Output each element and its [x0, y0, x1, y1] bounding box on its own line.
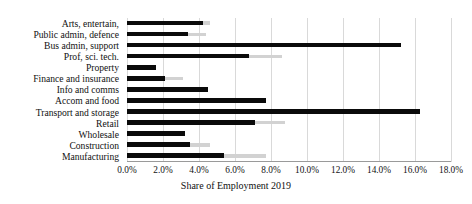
category-axis-labels: Arts, entertain,Public admin, defenceBus…	[0, 18, 123, 162]
bar-row	[127, 107, 451, 118]
category-label: Info and comms	[0, 84, 123, 95]
x-tick-label: 18.0%	[439, 165, 463, 175]
category-label: Transport and storage	[0, 107, 123, 118]
x-tick-label: 12.0%	[331, 165, 355, 175]
bar-segment-dark	[127, 131, 185, 136]
bar-segment-dark	[127, 76, 165, 81]
category-label: Retail	[0, 118, 123, 129]
x-tick-label: 10.0%	[295, 165, 319, 175]
bar-segment-dark	[127, 142, 190, 147]
category-label: Finance and insurance	[0, 73, 123, 84]
category-label: Manufacturing	[0, 151, 123, 162]
bar-rows	[127, 18, 451, 162]
x-tick-label: 6.0%	[225, 165, 244, 175]
bar-row	[127, 40, 451, 51]
category-label: Construction	[0, 140, 123, 151]
bar-segment-dark	[127, 54, 249, 59]
bar-row	[127, 118, 451, 129]
category-label: Accom and food	[0, 95, 123, 106]
x-tick-label: 8.0%	[261, 165, 280, 175]
x-axis-tick-labels: 0.0%2.0%4.0%6.0%8.0%10.0%12.0%14.0%16.0%…	[127, 165, 451, 178]
x-tick-label: 4.0%	[189, 165, 208, 175]
category-label: Public admin, defence	[0, 29, 123, 40]
x-tick-label: 16.0%	[403, 165, 427, 175]
bar-row	[127, 129, 451, 140]
bar-row	[127, 51, 451, 62]
plot-area	[127, 18, 451, 162]
bar-segment-dark	[127, 98, 266, 103]
bar-segment-dark	[127, 43, 401, 48]
bar-row	[127, 29, 451, 40]
bar-segment-dark	[127, 65, 156, 70]
bar-segment-dark	[127, 87, 208, 92]
category-label: Arts, entertain,	[0, 18, 123, 29]
x-tick-label: 0.0%	[117, 165, 136, 175]
category-label: Prof, sci. tech.	[0, 51, 123, 62]
bar-row	[127, 95, 451, 106]
bar-segment-dark	[127, 21, 203, 26]
bar-segment-dark	[127, 153, 224, 158]
bar-row	[127, 73, 451, 84]
x-tick-label: 2.0%	[153, 165, 172, 175]
bar-segment-dark	[127, 32, 188, 37]
bar-segment-dark	[127, 120, 255, 125]
gridline	[451, 18, 452, 162]
x-tick-label: 14.0%	[367, 165, 391, 175]
bar-row	[127, 140, 451, 151]
bar-row	[127, 84, 451, 95]
x-axis-title: Share of Employment 2019	[0, 180, 472, 191]
bar-row	[127, 62, 451, 73]
x-axis-line	[127, 161, 451, 162]
bar-row	[127, 18, 451, 29]
category-label: Wholesale	[0, 129, 123, 140]
category-label: Property	[0, 62, 123, 73]
bar-segment-dark	[127, 109, 420, 114]
category-label: Bus admin, support	[0, 40, 123, 51]
bar-chart: Arts, entertain,Public admin, defenceBus…	[0, 0, 472, 204]
